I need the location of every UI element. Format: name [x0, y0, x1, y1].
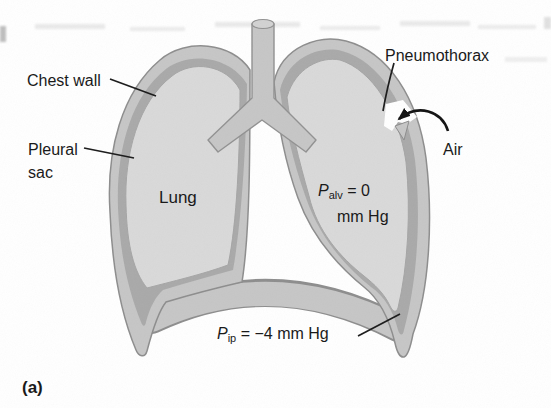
pleural-sac-label-line2: sac — [28, 161, 78, 184]
pneumothorax-figure: Chest wall Pleural sac Lung Pneumothorax… — [0, 0, 551, 408]
pressure-relation: = −4 mm Hg — [236, 325, 328, 342]
pneumothorax-label: Pneumothorax — [385, 45, 489, 67]
pressure-relation: = 0 — [343, 182, 370, 199]
alveolar-pressure-value: Palv = 0 — [318, 182, 370, 199]
intrapleural-pressure-label: Pip = −4 mm Hg — [217, 323, 329, 349]
pleural-sac-label-line1: Pleural — [28, 138, 78, 161]
pressure-symbol: P — [217, 325, 228, 342]
pressure-subscript: ip — [228, 332, 237, 344]
air-label: Air — [443, 139, 463, 161]
lung-label: Lung — [159, 187, 197, 209]
chest-wall-label: Chest wall — [27, 70, 101, 92]
pressure-symbol: P — [318, 182, 329, 199]
alveolar-pressure-unit: mm Hg — [337, 208, 389, 225]
pleural-sac-label: Pleural sac — [28, 138, 78, 184]
alveolar-pressure-label: Palv = 0 mm Hg — [318, 180, 389, 228]
pressure-subscript: alv — [329, 189, 343, 201]
figure-caption: (a) — [22, 378, 43, 398]
